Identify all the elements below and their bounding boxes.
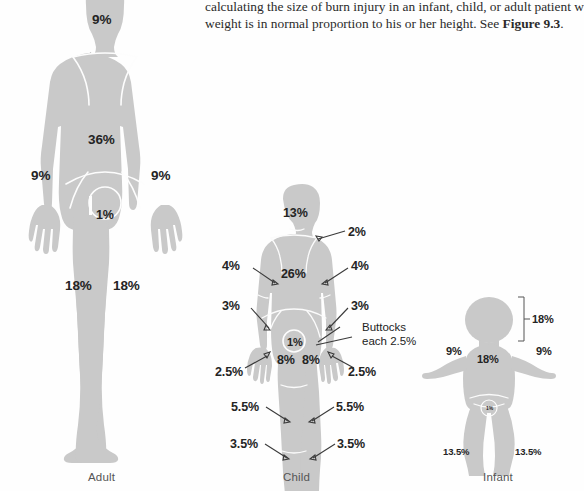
child-left-thigh-percent: 8%: [302, 353, 320, 367]
child-right-thigh-percent: 8%: [277, 353, 295, 367]
child-right-hand-percent: 2.5%: [215, 365, 243, 379]
adult-left-arm-percent: 9%: [151, 168, 170, 183]
child-genitalia-percent: 1%: [287, 336, 303, 348]
adult-genitalia-percent: 1%: [96, 208, 114, 222]
child-caption: Child: [283, 471, 310, 483]
child-left-foot-percent: 3.5%: [337, 437, 365, 451]
child-buttocks-note-line1: Buttocks: [362, 320, 416, 334]
child-left-lower-leg-percent: 5.5%: [336, 400, 364, 414]
infant-left-leg-percent: 13.5%: [515, 446, 541, 457]
child-neck-percent: 2%: [348, 225, 366, 239]
child-left-forearm-percent: 3%: [351, 299, 369, 313]
child-left-hand-percent: 2.5%: [348, 365, 376, 379]
infant-right-arm-percent: 9%: [446, 345, 462, 357]
adult-right-arm-percent: 9%: [31, 168, 50, 183]
infant-left-arm-percent: 9%: [536, 345, 552, 357]
adult-trunk-percent: 36%: [88, 132, 115, 147]
adult-left-leg-percent: 18%: [113, 278, 140, 293]
infant-caption: Infant: [483, 471, 513, 483]
child-buttocks-note-line2: each 2.5%: [362, 334, 416, 348]
adult-caption: Adult: [88, 471, 115, 483]
infant-right-leg-percent: 13.5%: [443, 446, 469, 457]
child-right-foot-percent: 3.5%: [230, 437, 258, 451]
child-head-percent: 13%: [283, 206, 308, 220]
child-left-upper-arm-percent: 4%: [351, 259, 369, 273]
child-trunk-percent: 26%: [281, 267, 306, 281]
caption-line-2-post: .: [560, 16, 563, 31]
child-right-forearm-percent: 3%: [222, 299, 240, 313]
child-right-upper-arm-percent: 4%: [222, 259, 240, 273]
adult-right-leg-percent: 18%: [65, 278, 92, 293]
adult-figure-silhouette: [29, 0, 183, 463]
infant-trunk-percent: 18%: [477, 353, 499, 365]
child-buttocks-note: Buttocks each 2.5%: [362, 320, 416, 348]
infant-head-percent: 18%: [532, 313, 554, 325]
adult-head-percent: 9%: [92, 12, 111, 27]
infant-genitalia-percent: 1%: [486, 405, 493, 411]
child-right-lower-leg-percent: 5.5%: [231, 400, 259, 414]
